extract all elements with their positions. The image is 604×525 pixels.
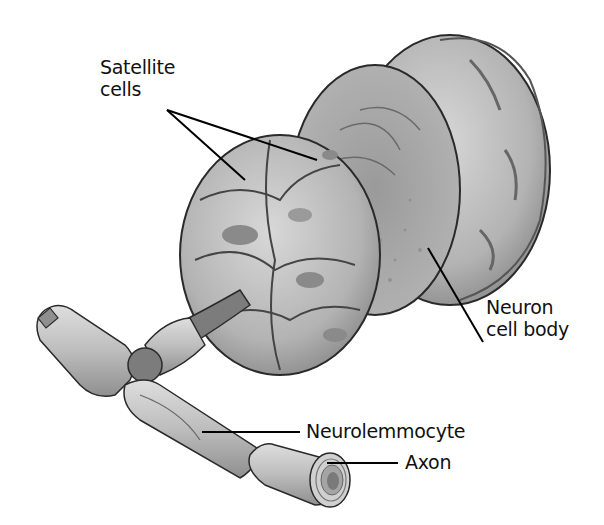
label-axon: Axon (405, 451, 451, 473)
label-satellite-cells: Satellite cells (100, 56, 175, 100)
label-satellite-line1: Satellite (100, 56, 175, 78)
neuron-diagram (0, 0, 604, 525)
label-neuron-line1: Neuron (486, 296, 569, 318)
label-satellite-line2: cells (100, 78, 175, 100)
label-neurolemmocyte: Neurolemmocyte (306, 420, 465, 442)
label-neuron-cell-body: Neuron cell body (486, 296, 569, 340)
satellite-cells-cluster (180, 135, 380, 375)
label-neuron-line2: cell body (486, 318, 569, 340)
axon-cross-section (310, 453, 350, 507)
